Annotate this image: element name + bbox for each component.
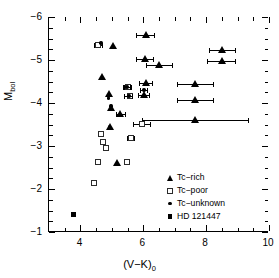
y-tick-label: −5 bbox=[14, 54, 42, 65]
axis-tick bbox=[262, 189, 268, 190]
axis-tick bbox=[49, 189, 55, 190]
error-bar-cap bbox=[136, 33, 137, 38]
legend-item: Tc−rich bbox=[163, 171, 225, 184]
error-bar-cap bbox=[177, 98, 178, 103]
error-bar-cap bbox=[147, 88, 148, 93]
y-tick-label: −4 bbox=[14, 97, 42, 108]
axis-tick bbox=[269, 17, 270, 23]
axis-tick bbox=[96, 17, 97, 21]
data-point bbox=[99, 41, 102, 44]
data-point bbox=[103, 145, 109, 151]
axis-tick bbox=[265, 168, 269, 169]
axis-tick bbox=[49, 232, 55, 233]
x-tick-label: 10 bbox=[256, 237, 279, 248]
data-point bbox=[218, 57, 226, 64]
legend: Tc−richTc−poorTc−unknownHD 121447 bbox=[163, 171, 225, 223]
error-bar-cap bbox=[213, 98, 214, 103]
axis-tick bbox=[80, 225, 81, 231]
axis-tick bbox=[262, 103, 268, 104]
error-bar-cap bbox=[136, 57, 137, 62]
legend-marker-icon bbox=[163, 202, 177, 205]
axis-tick bbox=[269, 225, 270, 231]
error-bar-cap bbox=[131, 85, 132, 90]
error-bar-cap bbox=[140, 88, 141, 93]
legend-item: Tc−unknown bbox=[163, 197, 225, 210]
axis-tick bbox=[49, 200, 53, 201]
data-point bbox=[98, 131, 104, 137]
legend-item-label: Tc−unknown bbox=[177, 199, 225, 208]
error-bar-cap bbox=[124, 94, 125, 99]
error-bar-cap bbox=[172, 63, 173, 68]
error-bar-cap bbox=[130, 85, 131, 90]
error-bar-cap bbox=[235, 59, 236, 64]
axis-tick bbox=[265, 135, 269, 136]
x-tick-label: 6 bbox=[130, 237, 154, 248]
error-bar-cap bbox=[133, 122, 134, 127]
legend-item-label: Tc−poor bbox=[177, 186, 208, 195]
error-bar-cap bbox=[139, 81, 140, 86]
axis-tick bbox=[49, 146, 55, 147]
error-bar-cap bbox=[146, 63, 147, 68]
axis-tick bbox=[49, 28, 53, 29]
data-point bbox=[141, 55, 149, 62]
error-bar-cap bbox=[213, 82, 214, 87]
data-point bbox=[191, 96, 199, 103]
axis-tick bbox=[49, 82, 53, 83]
error-bar-cap bbox=[150, 122, 151, 127]
axis-tick bbox=[128, 228, 129, 232]
y-tick-label: −6 bbox=[14, 11, 42, 22]
error-bar-cap bbox=[177, 82, 178, 87]
data-point bbox=[71, 212, 76, 217]
axis-tick bbox=[262, 60, 268, 61]
axis-tick bbox=[206, 17, 207, 23]
axis-tick bbox=[262, 146, 268, 147]
data-point bbox=[128, 135, 134, 141]
data-point bbox=[107, 96, 110, 99]
error-bar-cap bbox=[123, 85, 124, 90]
error-bar-cap bbox=[153, 57, 154, 62]
error-bar-cap bbox=[248, 118, 249, 123]
data-point bbox=[109, 104, 112, 107]
data-point bbox=[113, 159, 121, 166]
axis-tick bbox=[143, 17, 144, 23]
legend-marker-icon bbox=[163, 214, 177, 218]
y-tick-label: −1 bbox=[14, 226, 42, 237]
plot-area bbox=[48, 17, 268, 232]
data-point bbox=[109, 42, 117, 49]
axis-tick bbox=[265, 39, 269, 40]
axis-tick bbox=[265, 92, 269, 93]
axis-tick bbox=[49, 221, 53, 222]
legend-marker-icon bbox=[163, 188, 177, 194]
x-tick-label: 8 bbox=[193, 237, 217, 248]
x-axis-title: (V−K)0 bbox=[0, 258, 279, 273]
axis-tick bbox=[253, 17, 254, 21]
axis-tick bbox=[265, 49, 269, 50]
axis-tick bbox=[262, 17, 268, 18]
axis-tick bbox=[80, 17, 81, 23]
axis-tick bbox=[265, 82, 269, 83]
error-bar-cap bbox=[125, 112, 126, 117]
axis-tick bbox=[222, 17, 223, 21]
data-point bbox=[124, 159, 130, 165]
axis-tick bbox=[49, 135, 53, 136]
legend-item: Tc−poor bbox=[163, 184, 225, 197]
axis-tick bbox=[265, 28, 269, 29]
axis-tick bbox=[190, 228, 191, 232]
error-bar-cap bbox=[132, 94, 133, 99]
axis-tick bbox=[159, 228, 160, 232]
legend-item-label: HD 121447 bbox=[177, 212, 220, 221]
axis-tick bbox=[238, 228, 239, 232]
data-point bbox=[142, 79, 150, 86]
axis-tick bbox=[143, 225, 144, 231]
data-point bbox=[142, 31, 150, 38]
axis-tick bbox=[265, 71, 269, 72]
error-bar-cap bbox=[134, 136, 135, 141]
axis-tick bbox=[49, 92, 53, 93]
data-point bbox=[116, 110, 124, 117]
axis-tick bbox=[206, 225, 207, 231]
data-point bbox=[127, 94, 130, 97]
axis-tick bbox=[49, 39, 53, 40]
axis-tick bbox=[49, 103, 55, 104]
data-point bbox=[91, 180, 97, 186]
axis-tick bbox=[65, 17, 66, 21]
